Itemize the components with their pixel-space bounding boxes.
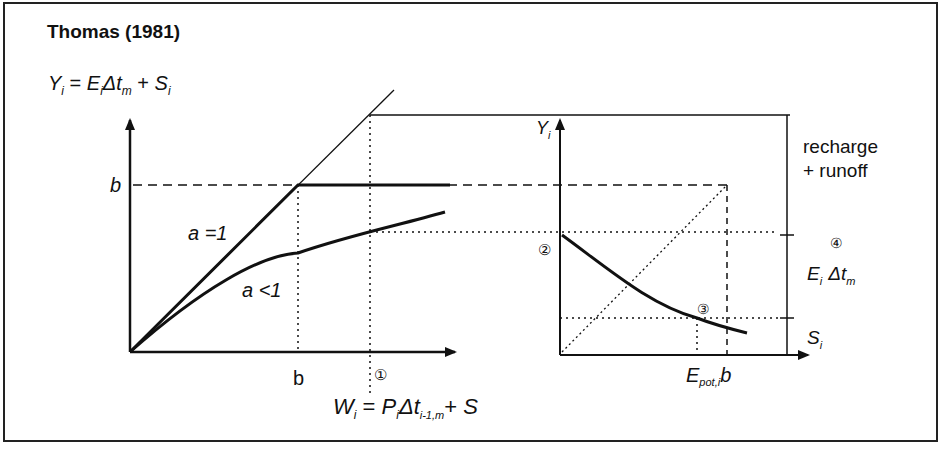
- right-y-axis-label: Yi: [536, 118, 551, 141]
- svg-text:Wi = PiΔti-1,m+ S: Wi = PiΔti-1,m+ S: [333, 394, 478, 422]
- right-decay-curve: [562, 235, 747, 333]
- label-a-less-than-1: a <1: [242, 279, 281, 301]
- w-equation: Wi = PiΔti-1,m+ S: [333, 394, 478, 422]
- marker-3: ③: [697, 301, 710, 317]
- curve-a-less-than-1: [130, 212, 445, 352]
- label-a-equals-1: a =1: [188, 222, 227, 244]
- left-chart: [130, 90, 790, 395]
- runoff-label: + runoff: [803, 160, 868, 181]
- outer-frame: [4, 3, 937, 441]
- right-chart: [560, 115, 808, 355]
- svg-text:Yi = EiΔtm + Si: Yi = EiΔtm + Si: [48, 72, 171, 98]
- side-si-label: Si: [807, 327, 823, 351]
- marker-4: ④: [830, 235, 843, 251]
- diagram-title: Thomas (1981): [47, 21, 180, 42]
- y-equation: Yi = EiΔtm + Si: [48, 72, 171, 98]
- recharge-label: recharge: [803, 136, 878, 157]
- marker-1: ①: [374, 366, 387, 383]
- dotted-diagonal: [562, 185, 727, 352]
- marker-2: ②: [538, 241, 551, 258]
- left-x-tick-b: b: [293, 367, 304, 389]
- left-y-tick-b: b: [110, 174, 121, 196]
- curve-a-equals-1: [130, 185, 450, 352]
- side-ei-dtm-label: EiΔtm: [807, 263, 855, 287]
- x-tick-epot-b: Epot,ib: [686, 364, 731, 388]
- thomas-model-diagram: Thomas (1981) Yi = EiΔtm + Si b b a =1 a…: [0, 0, 941, 449]
- diagram-canvas: Thomas (1981) Yi = EiΔtm + Si b b a =1 a…: [0, 0, 941, 449]
